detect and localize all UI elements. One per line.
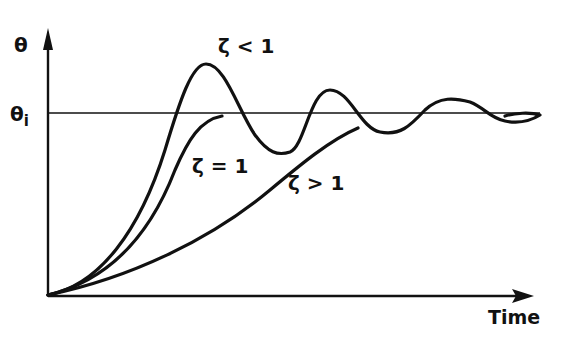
- reference-label: θi: [10, 102, 29, 130]
- y-axis-label: θ: [14, 33, 28, 57]
- step-response-diagram: θ θi ζ < 1 ζ = 1 ζ > 1 Time: [0, 0, 561, 337]
- y-axis-arrow-icon: [43, 28, 53, 50]
- x-axis-label: Time: [488, 306, 540, 328]
- label-overdamped: ζ > 1: [288, 171, 344, 195]
- label-underdamped: ζ < 1: [218, 34, 274, 58]
- label-critically-damped: ζ = 1: [192, 154, 248, 178]
